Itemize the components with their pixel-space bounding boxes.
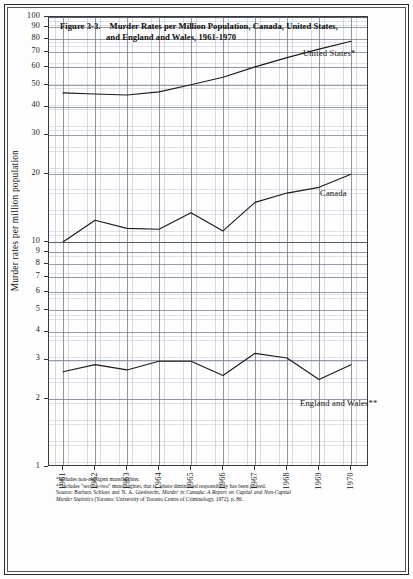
line-canada xyxy=(63,174,351,242)
y-tick-40: 40 xyxy=(4,101,40,109)
y-tick-30: 30 xyxy=(4,129,40,137)
source-suffix: (Toronto: University of Toronto Centre o… xyxy=(93,496,243,502)
x-tickmark-1963 xyxy=(126,466,127,470)
y-tick-70: 70 xyxy=(4,47,40,55)
x-tickmark-1964 xyxy=(158,466,159,470)
figure-title: Figure 3-3.Murder Rates per Million Popu… xyxy=(60,21,340,44)
y-tick-9: 9 xyxy=(4,247,40,255)
x-tickmark-1968 xyxy=(286,466,287,470)
figure-number: Figure 3-3. xyxy=(60,21,101,31)
y-tick-60: 60 xyxy=(4,62,40,70)
y-tick-2: 2 xyxy=(4,394,40,402)
y-tick-80: 80 xyxy=(4,34,40,42)
series-label-united-states: United States* xyxy=(303,48,355,58)
y-tick-7: 7 xyxy=(4,272,40,280)
series-label-canada: Canada xyxy=(320,188,347,198)
footnotes: *Includes non-negligent manslaughter. **… xyxy=(56,476,291,502)
y-tick-50: 50 xyxy=(4,80,40,88)
y-tick-1: 1 xyxy=(4,462,40,470)
y-tick-100: 100 xyxy=(4,12,40,20)
footnote-2: **Includes "section-two" manslaughter, t… xyxy=(56,483,291,490)
x-tickmark-1962 xyxy=(94,466,95,470)
footnote-1: *Includes non-negligent manslaughter. xyxy=(56,476,291,483)
series-label-england-wales: England and Wales** xyxy=(300,398,377,408)
source-prefix: Source: Barbara Schloss and N. A. Giesbr… xyxy=(56,489,162,495)
x-tickmark-1966 xyxy=(222,466,223,470)
y-tick-8: 8 xyxy=(4,259,40,267)
figure-title-line2: and England and Wales, 1961-1970 xyxy=(106,32,340,43)
y-tick-10: 10 xyxy=(4,237,40,245)
x-tick-1970: 1970 xyxy=(346,472,355,490)
y-tick-5: 5 xyxy=(4,305,40,313)
y-tickmark-1 xyxy=(44,466,48,467)
x-tickmark-1961 xyxy=(62,466,63,470)
source-note: Source: Barbara Schloss and N. A. Giesbr… xyxy=(56,489,291,502)
figure-page: Murder rates per million population 1234… xyxy=(0,0,413,579)
x-tickmark-1970 xyxy=(350,466,351,470)
line-england-wales xyxy=(63,353,351,379)
x-tick-1969: 1969 xyxy=(314,472,323,490)
x-tickmark-1967 xyxy=(254,466,255,470)
y-tick-3: 3 xyxy=(4,354,40,362)
figure-title-line1: Murder Rates per Million Population, Can… xyxy=(110,21,338,31)
x-tickmark-1965 xyxy=(190,466,191,470)
x-tickmark-1969 xyxy=(318,466,319,470)
y-tick-4: 4 xyxy=(4,326,40,334)
y-tick-90: 90 xyxy=(4,22,40,30)
y-tick-20: 20 xyxy=(4,169,40,177)
y-tick-6: 6 xyxy=(4,287,40,295)
